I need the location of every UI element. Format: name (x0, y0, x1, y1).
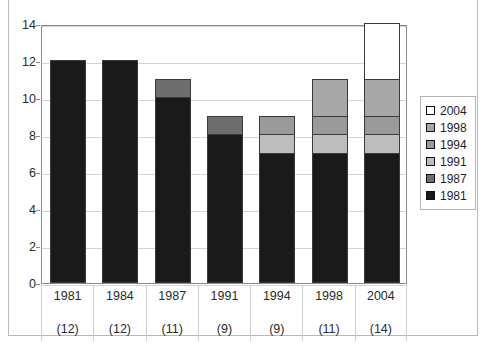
x-axis-column-1994: 1994(9) (250, 285, 302, 341)
x-tick-label-1984: 1984 (106, 290, 134, 303)
legend-swatch-1981 (426, 191, 435, 200)
x-tick-count-1981: (12) (57, 323, 79, 336)
y-tick-mark-4 (36, 210, 40, 211)
bar-segment-1998-1981[interactable] (312, 153, 348, 284)
x-tick-label-1987: 1987 (158, 290, 186, 303)
bar-segment-1984-1981[interactable] (102, 60, 138, 283)
y-tick-mark-8 (36, 136, 40, 137)
chart-legend: 200419981994199119871981 (420, 96, 476, 210)
x-tick-label-1998: 1998 (315, 290, 343, 303)
y-tick-label-0: 0 (10, 278, 36, 291)
bar-segment-1994-1991[interactable] (259, 134, 295, 154)
legend-item-1981[interactable]: 1981 (426, 187, 471, 204)
legend-item-1987[interactable]: 1987 (426, 170, 471, 187)
x-axis-column-1991: 1991(9) (198, 285, 250, 341)
plot-area (41, 25, 407, 284)
y-tick-mark-0 (36, 284, 40, 285)
y-tick-label-14: 14 (10, 19, 36, 32)
x-axis-column-2004: 2004(14) (355, 285, 407, 341)
bars-layer (42, 26, 406, 283)
legend-swatch-2004 (426, 106, 435, 115)
y-tick-label-12: 12 (10, 56, 36, 69)
chart-screenshot: 14121086420 1981(12)1984(12)1987(11)1991… (0, 0, 488, 358)
bar-segment-1987-1981[interactable] (155, 97, 191, 283)
y-tick-label-10: 10 (10, 93, 36, 106)
bar-column-1981[interactable] (50, 24, 86, 283)
x-tick-label-1991: 1991 (211, 290, 239, 303)
bar-column-2004[interactable] (364, 24, 400, 283)
legend-swatch-1994 (426, 140, 435, 149)
bar-segment-2004-1981[interactable] (364, 153, 400, 284)
x-tick-count-1994: (9) (269, 323, 284, 336)
y-tick-label-2: 2 (10, 241, 36, 254)
y-tick-mark-12 (36, 62, 40, 63)
bar-column-1987[interactable] (155, 24, 191, 283)
bar-column-1994[interactable] (259, 24, 295, 283)
legend-label-1998: 1998 (440, 122, 467, 134)
y-axis: 14121086420 (0, 25, 36, 284)
y-tick-mark-10 (36, 99, 40, 100)
bar-column-1991[interactable] (207, 24, 243, 283)
bar-segment-2004-1998[interactable] (364, 79, 400, 117)
x-tick-label-2004: 2004 (367, 290, 395, 303)
x-tick-count-1984: (12) (109, 323, 131, 336)
bar-column-1984[interactable] (102, 24, 138, 283)
bar-segment-2004-1991[interactable] (364, 134, 400, 154)
legend-swatch-1991 (426, 157, 435, 166)
bar-column-1998[interactable] (312, 24, 348, 283)
bar-segment-1981-1981[interactable] (50, 60, 86, 283)
bar-segment-1998-1998[interactable] (312, 79, 348, 117)
bar-segment-1991-1987[interactable] (207, 116, 243, 136)
x-axis-label-table: 1981(12)1984(12)1987(11)1991(9)1994(9)19… (41, 285, 407, 341)
bar-segment-1991-1981[interactable] (207, 134, 243, 283)
bar-segment-1994-1981[interactable] (259, 153, 295, 284)
x-tick-label-1994: 1994 (263, 290, 291, 303)
x-tick-count-1991: (9) (217, 323, 232, 336)
y-tick-mark-2 (36, 247, 40, 248)
legend-item-2004[interactable]: 2004 (426, 102, 471, 119)
x-axis-column-1998: 1998(11) (302, 285, 354, 341)
legend-swatch-1998 (426, 123, 435, 132)
x-axis-column-1984: 1984(12) (93, 285, 145, 341)
bar-segment-2004-2004[interactable] (364, 23, 400, 80)
y-tick-label-4: 4 (10, 204, 36, 217)
legend-swatch-1987 (426, 174, 435, 183)
x-tick-count-1998: (11) (318, 323, 339, 336)
legend-item-1991[interactable]: 1991 (426, 153, 471, 170)
x-tick-count-1987: (11) (162, 323, 183, 336)
bar-segment-2004-1994[interactable] (364, 116, 400, 136)
bar-segment-1987-1987[interactable] (155, 79, 191, 99)
x-tick-count-2004: (14) (370, 323, 392, 336)
y-tick-mark-14 (36, 25, 40, 26)
legend-label-1991: 1991 (440, 156, 467, 168)
legend-item-1998[interactable]: 1998 (426, 119, 471, 136)
legend-label-1987: 1987 (440, 173, 467, 185)
x-axis-column-1987: 1987(11) (146, 285, 198, 341)
x-axis-column-1981: 1981(12) (41, 285, 93, 341)
legend-item-1994[interactable]: 1994 (426, 136, 471, 153)
legend-label-1994: 1994 (440, 139, 467, 151)
bar-segment-1998-1994[interactable] (312, 116, 348, 136)
bar-segment-1994-1994[interactable] (259, 116, 295, 136)
bar-segment-1998-1991[interactable] (312, 134, 348, 154)
y-tick-label-6: 6 (10, 167, 36, 180)
x-tick-label-1981: 1981 (54, 290, 82, 303)
y-tick-mark-6 (36, 173, 40, 174)
legend-label-2004: 2004 (440, 105, 467, 117)
y-tick-label-8: 8 (10, 130, 36, 143)
legend-label-1981: 1981 (440, 190, 467, 202)
